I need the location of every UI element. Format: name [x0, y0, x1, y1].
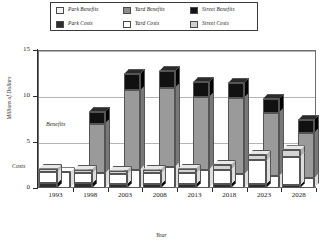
y-axis-tick-label: 10 — [12, 92, 30, 99]
bar-segment-yard-costs — [143, 173, 161, 184]
bar-segment-park-costs — [74, 183, 92, 188]
bar-segment-street-costs — [109, 171, 127, 175]
bar-segment-park-costs — [282, 185, 300, 188]
x-axis-tick-label: 2023 — [247, 192, 282, 199]
x-axis-tick-label: 2028 — [281, 192, 316, 199]
chart-legend: Park Benefits Yard Benefits Street Benef… — [50, 2, 258, 31]
bar-segment-street-benefits — [298, 120, 314, 133]
bar-segment-street-benefits — [124, 74, 140, 91]
bar-segment-yard-benefits-side — [314, 128, 319, 178]
x-axis-tick — [316, 188, 317, 192]
legend-label-street-costs: Street Costs — [202, 21, 229, 26]
bar-segment-park-costs — [213, 184, 231, 188]
bar-segment-park-costs — [39, 183, 57, 188]
bar-segment-yard-costs — [178, 173, 196, 184]
bar-segment-park-costs — [109, 184, 127, 188]
x-axis-tick-label: 2008 — [142, 192, 177, 199]
bar-segment-park-costs — [248, 184, 266, 188]
bar-segment-park-costs — [143, 184, 161, 188]
legend-item-yard-costs: Yard Costs — [123, 21, 190, 28]
legend-swatch-street-costs — [190, 21, 198, 28]
bar-segment-yard-costs — [74, 173, 92, 183]
y-axis-tick-label: 5 — [12, 138, 30, 145]
legend-item-park-costs: Park Costs — [56, 21, 123, 28]
y-axis-tick-label: 0 — [12, 184, 30, 191]
bar-segment-street-costs — [282, 150, 300, 156]
y-axis-tick — [33, 188, 37, 189]
x-axis-tick-label: 1998 — [73, 192, 108, 199]
x-axis-tick-label: 2003 — [108, 192, 143, 199]
bar-segment-yard-costs — [248, 160, 266, 184]
legend-label-park-costs: Park Costs — [68, 21, 93, 26]
bar-segment-yard-benefits-side — [140, 85, 145, 169]
legend-row: Park Costs Yard Costs Street Costs — [51, 17, 257, 31]
bar-segment-yard-costs-side — [300, 152, 305, 186]
bar-segment-yard-costs — [109, 174, 127, 184]
legend-label-yard-costs: Yard Costs — [135, 21, 159, 26]
x-axis-tick-label: 1993 — [38, 192, 73, 199]
annotation-costs: Costs — [12, 163, 25, 169]
legend-swatch-yard-benefits — [123, 7, 131, 14]
x-axis-label: Year — [0, 232, 323, 238]
legend-item-yard-benefits: Yard Benefits — [123, 7, 190, 14]
bar-segment-yard-benefits — [159, 88, 175, 167]
legend-label-street-benefits: Street Benefits — [202, 7, 235, 12]
legend-item-park-benefits: Park Benefits — [56, 7, 123, 14]
bar-segment-yard-benefits-side — [105, 119, 110, 174]
y-axis-tick-label: 15 — [12, 46, 30, 53]
bar-segment-street-costs — [248, 155, 266, 161]
y-axis-tick — [33, 142, 37, 143]
bar-segment-street-costs — [39, 169, 57, 173]
legend-swatch-yard-costs — [123, 21, 131, 28]
bar-chart: Park Benefits Yard Benefits Street Benef… — [0, 0, 323, 248]
legend-label-park-benefits: Park Benefits — [68, 7, 99, 12]
gridline — [39, 51, 315, 52]
bar-segment-street-costs — [213, 165, 231, 170]
annotation-benefits: Benefits — [46, 121, 65, 127]
bar-segment-street-benefits — [159, 71, 175, 88]
bar-segment-park-costs — [178, 184, 196, 188]
bar-segment-street-benefits — [228, 83, 244, 98]
bar-segment-yard-benefits-side — [175, 83, 180, 167]
bar-segment-yard-costs — [213, 170, 231, 185]
legend-item-street-costs: Street Costs — [190, 21, 257, 28]
bar-segment-yard-benefits — [124, 90, 140, 169]
bar-segment-street-costs — [74, 170, 92, 174]
bar-segment-yard-benefits — [193, 97, 209, 170]
legend-swatch-street-benefits — [190, 7, 198, 14]
bar-segment-street-benefits — [263, 99, 279, 113]
legend-item-street-benefits: Street Benefits — [190, 7, 257, 14]
bar-segment-street-benefits — [193, 82, 209, 97]
legend-row: Park Benefits Yard Benefits Street Benef… — [51, 3, 257, 17]
y-axis-tick — [33, 50, 37, 51]
bar-segment-street-benefits — [89, 112, 105, 124]
bar-segment-yard-benefits-side — [209, 92, 214, 170]
bar-segment-street-costs — [143, 170, 161, 174]
bar-segment-yard-costs — [282, 157, 300, 186]
legend-label-yard-benefits: Yard Benefits — [135, 7, 165, 12]
bar-segment-yard-costs — [39, 172, 57, 183]
y-axis-tick — [33, 96, 37, 97]
legend-swatch-park-benefits — [56, 7, 64, 14]
bar-segment-yard-costs-side — [266, 155, 271, 184]
legend-swatch-park-costs — [56, 21, 64, 28]
x-axis-tick-label: 2013 — [177, 192, 212, 199]
x-axis-tick-label: 2018 — [212, 192, 247, 199]
bar-segment-street-costs — [178, 169, 196, 174]
